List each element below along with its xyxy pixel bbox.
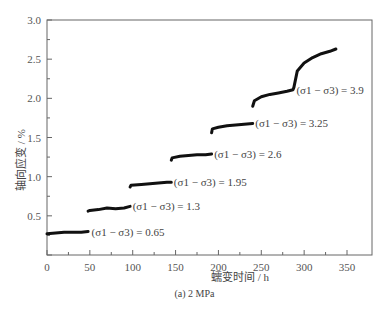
annotation-5: (σ1 − σ3) = 3.25 xyxy=(255,117,328,130)
svg-text:2.0: 2.0 xyxy=(27,92,41,104)
svg-text:0: 0 xyxy=(44,261,50,273)
svg-text:1.5: 1.5 xyxy=(27,132,41,144)
annotation-1: (σ1 − σ3) = 0.65 xyxy=(92,226,165,239)
svg-text:2.5: 2.5 xyxy=(27,53,41,65)
y-axis-label: 轴向应变 / % xyxy=(12,110,28,210)
svg-text:350: 350 xyxy=(339,261,356,273)
axis-ticks: 0501001502002503003500.51.01.52.02.53.0 xyxy=(27,14,356,273)
series-annotations: (σ1 − σ3) = 0.65(σ1 − σ3) = 1.3(σ1 − σ3)… xyxy=(92,84,365,239)
series-line-5 xyxy=(212,123,253,132)
svg-text:0.5: 0.5 xyxy=(27,210,41,222)
series-line-1 xyxy=(47,232,88,234)
series-line-4 xyxy=(171,154,211,160)
plot-frame xyxy=(47,20,372,255)
annotation-3: (σ1 − σ3) = 1.95 xyxy=(174,176,247,189)
annotation-4: (σ1 − σ3) = 2.6 xyxy=(214,148,282,161)
series-line-3 xyxy=(130,182,171,187)
svg-text:1.0: 1.0 xyxy=(27,171,41,183)
annotation-2: (σ1 − σ3) = 1.3 xyxy=(133,200,201,213)
svg-text:100: 100 xyxy=(124,261,141,273)
figure-caption: (a) 2 MPa xyxy=(0,288,389,299)
svg-text:3.0: 3.0 xyxy=(27,14,41,26)
annotation-6: (σ1 − σ3) = 3.9 xyxy=(296,84,364,97)
x-axis-label: 蠕变时间 / h xyxy=(150,268,330,284)
series-line-2 xyxy=(88,206,130,211)
series-line-6 xyxy=(253,49,336,106)
svg-text:50: 50 xyxy=(84,261,96,273)
